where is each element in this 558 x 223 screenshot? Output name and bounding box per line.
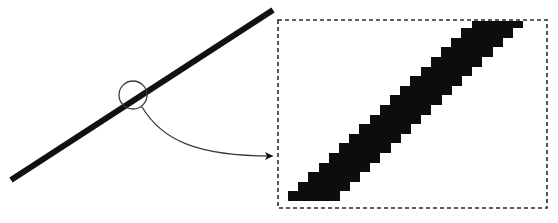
pixel-block (461, 28, 472, 76)
pixel-block (472, 21, 483, 67)
pixel-block (441, 47, 452, 95)
pixel-block (308, 172, 319, 201)
pixel-block (288, 191, 299, 201)
pixel-block (380, 105, 391, 153)
pixel-block (359, 124, 370, 172)
pixel-block (370, 115, 381, 163)
aliasing-diagram-svg (0, 0, 558, 223)
pixel-block (319, 163, 330, 201)
pixel-block (410, 76, 421, 124)
pixel-block (421, 67, 432, 115)
pixel-block (390, 95, 401, 143)
pixel-block (400, 86, 411, 134)
pixel-block (349, 134, 360, 182)
pixel-block (451, 38, 462, 86)
pixel-block (298, 182, 309, 201)
pixel-block (502, 21, 513, 38)
pixel-block (482, 21, 493, 57)
pixel-block (492, 21, 503, 47)
pixel-block (329, 153, 340, 201)
pixel-block (431, 57, 442, 105)
pixel-block (339, 143, 350, 191)
figure-root (0, 0, 558, 223)
pixel-block (512, 21, 523, 28)
